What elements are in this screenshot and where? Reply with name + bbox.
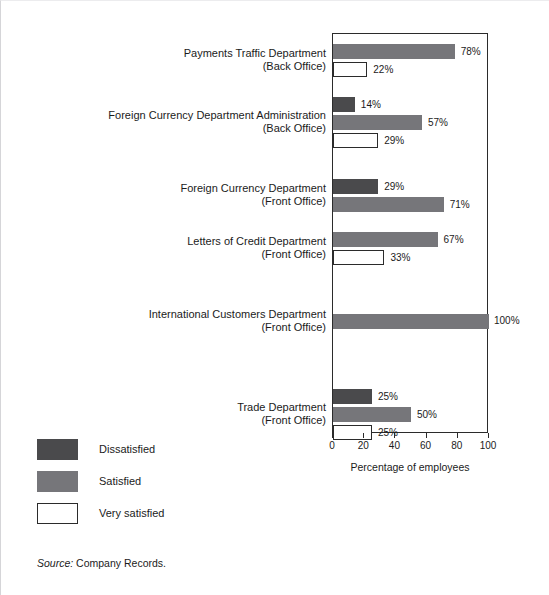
category-label: Foreign Currency Department(Front Office… [16,182,326,208]
legend-swatch-very [37,503,78,524]
x-axis-tick-label: 100 [480,440,497,452]
chart-plot-area: 78%22%14%57%29%29%71%67%33%25%50%25% [332,33,488,433]
bar-value-label: 50% [417,407,437,422]
bar-value-label: 29% [384,133,404,148]
bar-value-label: 71% [450,197,470,212]
legend-swatch-dissatisfied [37,439,78,460]
category-label-line1: International Customers Department [16,308,326,321]
category-label: Payments Traffic Department(Back Office) [16,47,326,73]
category-label-line2: (Front Office) [16,248,326,261]
x-axis-tick-label: 20 [358,440,369,452]
page-canvas: Payments Traffic Department(Back Office)… [0,0,549,595]
bar-value-label: 78% [461,44,481,59]
category-label-line2: (Back Office) [16,60,326,73]
x-axis-title: Percentage of employees [332,461,488,473]
category-label-line2: (Front Office) [16,414,326,427]
category-label-line2: (Back Office) [16,122,326,135]
x-axis-tick [488,433,489,438]
bar-satisfied [333,232,438,247]
category-label-column: Payments Traffic Department(Back Office)… [11,33,326,433]
x-axis-tick [457,433,458,438]
x-axis-tick [363,433,364,438]
legend-label-very: Very satisfied [99,506,164,520]
source-text: Company Records. [76,557,166,569]
x-axis-tick [394,433,395,438]
bar-very [333,133,378,148]
bar-value-label: 33% [390,250,410,265]
bar-dissatisfied [333,389,372,404]
category-label: Letters of Credit Department(Front Offic… [16,235,326,261]
legend-label-satisfied: Satisfied [99,474,141,488]
source-keyword: Source: [37,557,73,569]
bar-satisfied [333,115,422,130]
x-axis-tick-label: 80 [451,440,462,452]
bar-satisfied [333,197,444,212]
category-label: International Customers Department(Front… [16,308,326,334]
bar-value-label: 14% [361,97,381,112]
category-label-line2: (Front Office) [16,321,326,334]
category-label-line1: Payments Traffic Department [16,47,326,60]
bar-dissatisfied [333,97,355,112]
category-label: Foreign Currency Department Administrati… [16,109,326,135]
x-axis: 020406080100 [332,433,488,463]
bars-container: 78%22%14%57%29%29%71%67%33%25%50%25% [333,34,487,432]
category-label-line1: Foreign Currency Department [16,182,326,195]
x-axis-tick [332,433,333,438]
bar-value-label: 29% [384,179,404,194]
x-axis-tick-label: 60 [420,440,431,452]
x-axis-tick-label: 40 [389,440,400,452]
legend-label-dissatisfied: Dissatisfied [99,442,155,456]
legend-swatch-satisfied [37,471,78,492]
category-label-line1: Foreign Currency Department Administrati… [16,109,326,122]
x-axis-tick-label: 0 [329,440,335,452]
category-label: Trade Department(Front Office) [16,401,326,427]
category-label-line2: (Front Office) [16,195,326,208]
category-label-line1: Trade Department [16,401,326,414]
bar-very [333,250,384,265]
bar-value-label: 22% [373,62,393,77]
source-note: Source: Company Records. [37,557,166,569]
bar-value-label: 25% [378,389,398,404]
bar-dissatisfied [333,179,378,194]
bar-satisfied [333,314,489,329]
x-axis-tick [426,433,427,438]
bar-satisfied [333,44,455,59]
bar-very [333,62,367,77]
bar-value-label: 67% [444,232,464,247]
bar-value-label: 57% [428,115,448,130]
bar-satisfied [333,407,411,422]
category-label-line1: Letters of Credit Department [16,235,326,248]
bar-value-label: 100% [494,313,520,328]
